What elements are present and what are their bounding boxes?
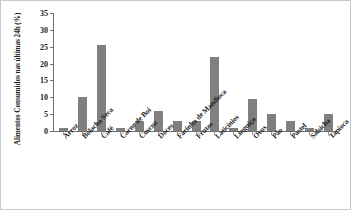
y-tick-label: 20 (40, 59, 48, 68)
bar-slot (243, 13, 262, 131)
y-tick-label: 0 (44, 127, 48, 136)
y-tick-mark (50, 131, 53, 132)
y-tick-label: 30 (40, 25, 48, 34)
y-tick-label: 25 (40, 42, 48, 51)
bar-slot (262, 13, 281, 131)
bar-slot (149, 13, 168, 131)
y-tick-mark (50, 47, 53, 48)
bar-slot (54, 13, 73, 131)
y-tick-mark (50, 64, 53, 65)
bar-slot (281, 13, 300, 131)
y-tick-mark (50, 80, 53, 81)
y-tick-label: 5 (44, 110, 48, 119)
bar-slot (111, 13, 130, 131)
x-axis-labels: ArrozBolacha SecaCaféCarne de BoiCuscuzD… (54, 134, 339, 204)
y-tick-mark (50, 114, 53, 115)
bar-slot (319, 13, 338, 131)
y-tick-mark (50, 97, 53, 98)
y-tick-label: 15 (40, 76, 48, 85)
y-tick-label: 35 (40, 9, 48, 18)
bar-slot (168, 13, 187, 131)
y-tick-mark (50, 30, 53, 31)
chart-figure: Alimentos Consumidos nas últimas 24h (%)… (0, 0, 351, 210)
y-tick-mark (50, 13, 53, 14)
y-axis-title: Alimentos Consumidos nas últimas 24h (%) (7, 9, 29, 149)
y-tick-label: 10 (40, 93, 48, 102)
bar-slot (300, 13, 319, 131)
bar-slot (73, 13, 92, 131)
